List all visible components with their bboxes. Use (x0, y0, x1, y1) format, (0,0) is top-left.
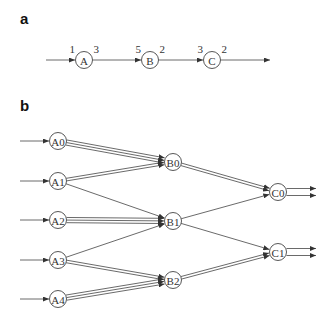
node-label: C1 (272, 247, 285, 259)
node-b0: B0 (165, 154, 182, 171)
node-a4: A4 (50, 291, 67, 308)
out-rate-label: 3 (94, 43, 100, 55)
node-label: C0 (272, 187, 285, 199)
edge-a0-b0 (67, 140, 165, 158)
edge-a1-b0 (67, 165, 165, 181)
node-a3: A3 (50, 252, 67, 269)
node-label: A2 (51, 215, 64, 227)
in-rate-label: 3 (198, 43, 204, 55)
edge-a4-b2 (66, 281, 164, 297)
edge-a2-b1 (66, 223, 164, 224)
in-rate-label: 1 (70, 43, 76, 55)
node-label: B0 (167, 157, 180, 169)
node-label: A (80, 55, 88, 67)
node-label: A3 (51, 255, 65, 267)
node-a: A (76, 52, 93, 69)
panel-a-graph: A13B52C32 (46, 43, 270, 69)
node-label: B1 (167, 216, 180, 228)
node-b2: B2 (165, 272, 182, 289)
node-label: A1 (51, 176, 64, 188)
node-a1: A1 (50, 173, 67, 190)
node-label: C (208, 55, 215, 67)
edge-a1-b0 (66, 162, 164, 178)
panel-b-graph: A0A1A2A3A4B0B1B2C0C1 (20, 133, 316, 308)
edge-a1-b1 (66, 184, 164, 218)
edge-b2-c1 (182, 256, 270, 279)
edge-b0-c0 (181, 166, 269, 191)
dataflow-diagram: A13B52C32 A0A1A2A3A4B0B1B2C0C1 (0, 0, 329, 318)
edge-a0-b0 (66, 143, 164, 161)
node-a2: A2 (50, 212, 67, 229)
node-c1: C1 (270, 244, 287, 261)
edge-b2-c1 (181, 253, 269, 276)
edge-a2-b1 (67, 217, 165, 218)
node-b: B (142, 52, 159, 69)
out-rate-label: 2 (160, 43, 166, 55)
edge-a3-b1 (66, 224, 164, 257)
node-c: C (204, 52, 221, 69)
edge-a2-b1 (66, 220, 164, 221)
node-label: B (146, 55, 153, 67)
node-a0: A0 (50, 133, 67, 150)
edge-a0-b0 (66, 145, 164, 163)
edge-a3-b2 (67, 260, 165, 277)
out-rate-label: 2 (222, 43, 228, 55)
edge-b1-c1 (181, 223, 269, 249)
node-c0: C0 (270, 184, 287, 201)
edge-a3-b2 (66, 263, 164, 280)
node-label: A0 (51, 136, 65, 148)
node-label: A4 (51, 294, 65, 306)
edge-b0-c0 (182, 163, 270, 188)
in-rate-label: 5 (136, 43, 142, 55)
edge-b1-c0 (181, 194, 269, 218)
node-b1: B1 (165, 213, 182, 230)
node-label: B2 (167, 275, 180, 287)
